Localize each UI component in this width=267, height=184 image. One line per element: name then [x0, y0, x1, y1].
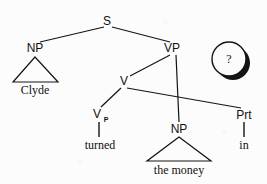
node-prt: Prt: [236, 108, 251, 122]
edge-s-to-vp: [112, 27, 170, 42]
node-v-upper: V: [120, 74, 128, 88]
triangle-object: [147, 137, 211, 161]
node-v-particle: V: [93, 107, 101, 121]
edge-v-to-prt: [127, 88, 241, 108]
edge-v-to-vhead: [101, 88, 121, 107]
node-vp: VP: [164, 41, 180, 55]
node-s: S: [103, 14, 111, 28]
terminal-clyde: Clyde: [21, 83, 50, 98]
node-np-subject: NP: [27, 41, 44, 55]
triangle-subject: [13, 57, 58, 82]
terminal-turned: turned: [85, 138, 116, 153]
question-mark-icon: ?: [226, 52, 231, 67]
syntax-tree-diagram: S NP VP V V P NP Prt Clyde turned the mo…: [0, 0, 267, 184]
question-mark-badge[interactable]: ?: [212, 42, 252, 82]
edge-vp-to-np-object: [176, 55, 179, 122]
terminal-the-money: the money: [154, 163, 204, 178]
edge-s-to-np: [40, 27, 104, 42]
node-v-particle-superscript: P: [104, 116, 109, 123]
terminal-in: in: [239, 138, 248, 153]
node-np-object: NP: [171, 122, 188, 136]
edge-vp-to-v: [130, 55, 170, 76]
